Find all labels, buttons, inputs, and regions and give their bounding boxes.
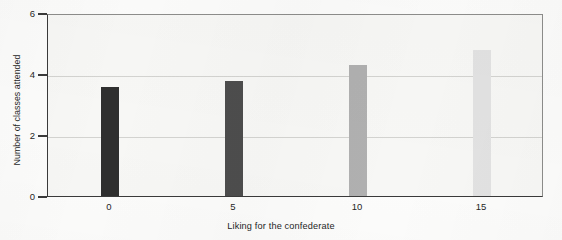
x-axis-title: Liking for the confederate [0, 221, 562, 231]
x-tick-label: 0 [89, 202, 129, 212]
x-tick-label: 10 [337, 202, 377, 212]
y-tick-mark-2 [38, 135, 47, 137]
y-tick-label: 6 [11, 9, 35, 19]
y-tick-mark-6 [38, 13, 47, 15]
x-tick-label: 15 [461, 202, 501, 212]
y-axis: 0246051015 [0, 0, 562, 240]
x-tick-label: 5 [213, 202, 253, 212]
y-axis-title: Number of classes attended [12, 30, 22, 190]
bar-chart-figure: 0246051015 Number of classes attended Li… [0, 0, 562, 240]
y-tick-label: 0 [11, 192, 35, 202]
y-tick-mark-4 [38, 74, 47, 76]
y-tick-mark-0 [38, 196, 47, 198]
